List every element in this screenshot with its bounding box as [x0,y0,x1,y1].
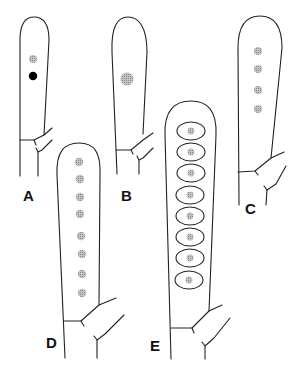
panel-label-b: B [121,187,132,204]
diagram-canvas [0,0,304,373]
ascus-b [112,17,153,174]
ascospore [177,143,205,161]
ascus-diagram: A B C D E [0,0,304,373]
nucleus-stippled [75,158,83,166]
ascospore [176,207,204,225]
ascospore [176,228,204,246]
nucleus-stippled [77,232,85,240]
panel-label-c: C [245,200,256,217]
nucleus-stippled [254,47,262,55]
panel-label-d: D [46,334,57,351]
nucleus-stippled [78,250,86,258]
nucleus-stippled [78,289,86,297]
nucleus-solid [29,72,37,80]
ascus-c [238,16,286,205]
ascospore [176,186,204,204]
nucleus-stippled [254,86,262,94]
ascospore [177,122,205,140]
nucleus-stippled [254,65,262,73]
nucleus-stippled [78,270,86,278]
nucleus-stippled [76,210,84,218]
panel-label-e: E [150,337,160,354]
nucleus-stippled-large [121,73,134,86]
ascospore [175,271,203,289]
nucleus-stippled [29,55,37,63]
ascus-d [57,143,124,358]
nucleus-stippled [254,105,262,113]
nucleus-stippled [76,193,84,201]
ascus-a [20,17,52,176]
nucleus-stippled [76,175,84,183]
panel-label-a: A [23,187,34,204]
ascospore [176,249,204,267]
ascospore [177,164,205,182]
ascus-e [165,101,230,359]
